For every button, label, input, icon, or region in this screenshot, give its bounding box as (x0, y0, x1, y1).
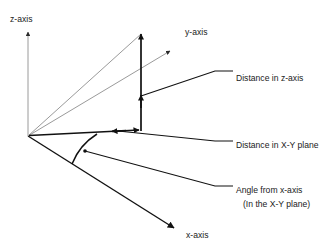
angle-from-x-axis-sublabel: (In the X-Y plane) (243, 199, 310, 209)
measure-group (29, 34, 141, 164)
distance-xy-plane-leader (118, 131, 233, 141)
distance-z-axis-leader (141, 71, 233, 96)
angle-from-x-axis-label: Angle from x-axis (236, 185, 302, 195)
distance-xy-plane-label: Distance in X-Y plane (236, 140, 319, 150)
angle-leader-anchor-dot (83, 149, 87, 153)
label-group: z-axis y-axis x-axis Distance in z-axis … (10, 14, 319, 240)
diagram-canvas: z-axis y-axis x-axis Distance in z-axis … (0, 0, 333, 250)
origin-to-point-line (28, 34, 141, 136)
axis-group (28, 32, 174, 228)
x-axis-label: x-axis (186, 230, 208, 240)
distance-z-axis-label: Distance in z-axis (236, 73, 303, 83)
y-axis-label: y-axis (185, 27, 207, 37)
x-axis-line (28, 136, 174, 228)
angle-from-x-axis-leader (85, 151, 233, 186)
angle-arc (72, 134, 97, 164)
coordinate-system-diagram: z-axis y-axis x-axis Distance in z-axis … (0, 0, 333, 250)
z-axis-label: z-axis (10, 14, 32, 24)
leader-group (83, 71, 233, 186)
